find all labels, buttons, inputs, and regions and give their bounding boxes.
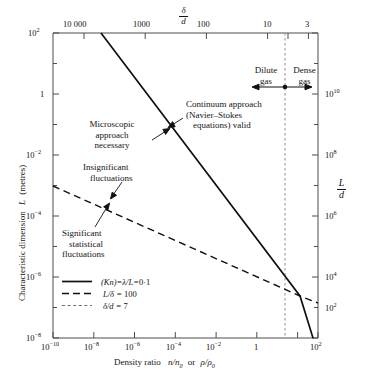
annotation-dilute-gas: Dilute gas bbox=[249, 65, 283, 86]
continuum-line-1: Continuum approach bbox=[186, 99, 262, 110]
x-axis-title-text: Density ratio bbox=[114, 357, 161, 367]
x-tick-label-1e-2: 10−2 bbox=[206, 342, 221, 352]
x-tick-label-1e-10: 10−10 bbox=[41, 342, 59, 352]
significant-line-3: fluctuations bbox=[62, 249, 105, 260]
continuum-line-2: (Navier–Stokes bbox=[186, 110, 262, 121]
legend-entry-delta-over-d: δ/d = 7 bbox=[103, 301, 128, 311]
y-tick-label-1e-4: 10−4 bbox=[26, 211, 41, 221]
dilute-gas-line-2: gas bbox=[249, 76, 283, 87]
annotation-dense-gas: Dense gas bbox=[288, 65, 321, 86]
legend-ld-value: 100 bbox=[124, 289, 137, 299]
y-tick-label-1e-6: 10−6 bbox=[26, 272, 41, 282]
annotation-continuum-approach: Continuum approach (Navier–Stokes equati… bbox=[186, 99, 262, 131]
microscopic-line-3: necessary bbox=[73, 140, 151, 151]
insignificant-line-1: Insignificant bbox=[83, 162, 133, 173]
top-tick-label-1000: 1000 bbox=[133, 19, 150, 29]
legend-ld-eq: = bbox=[116, 289, 122, 299]
continuum-line-3: equations) valid bbox=[186, 120, 262, 131]
microscopic-line-1: Microscopic bbox=[73, 119, 151, 130]
x-axis-title-n-over-n0: n/n0 bbox=[168, 357, 183, 367]
x-top-axis-ticks bbox=[84, 33, 308, 39]
x-tick-label-1: 1 bbox=[254, 342, 258, 352]
legend-kn-value: 0·1 bbox=[139, 277, 150, 287]
y-tick-label-1e2: 102 bbox=[28, 28, 40, 38]
significant-line-2: statistical bbox=[62, 239, 105, 250]
y-axis-ticks bbox=[53, 33, 59, 338]
top-tick-label-10000: 10 000 bbox=[63, 19, 86, 29]
legend-kn-lambda: λ/L bbox=[122, 277, 133, 287]
legend-kn-symbol: (Kn) bbox=[101, 277, 117, 287]
y-tick-label-1e-8: 10−8 bbox=[26, 333, 41, 343]
top-axis-title-numerator: δ bbox=[179, 6, 188, 15]
top-axis-title-denominator: d bbox=[179, 17, 188, 26]
annotation-significant-fluctuations: Significant statistical fluctuations bbox=[62, 228, 105, 260]
legend-entry-L-over-delta: L/δ = 100 bbox=[103, 289, 137, 299]
x-tick-label-1e-8: 10−8 bbox=[84, 342, 99, 352]
y-right-tick-label-1e10: 1010 bbox=[325, 89, 340, 99]
legend-entry-knudsen: (Kn)=λ/L=0·1 bbox=[101, 277, 150, 287]
x-axis-title-rho-over-rho0: ρ/ρ0 bbox=[201, 357, 215, 367]
dense-gas-line-1: Dense bbox=[288, 65, 321, 76]
y-right-tick-label-1e6: 106 bbox=[325, 211, 337, 221]
y-right-tick-label-1e4: 104 bbox=[325, 272, 337, 282]
figure-root: δ d 10 000 1000 100 10 3 102 1 10−2 10−4… bbox=[0, 0, 379, 379]
annotation-microscopic-approach: Microscopic approach necessary bbox=[73, 119, 151, 151]
top-axis-title: δ d bbox=[179, 6, 188, 26]
right-axis-title-numerator: L bbox=[337, 178, 346, 188]
right-axis-title: L d bbox=[337, 178, 346, 200]
annotation-insignificant-fluctuations: Insignificant fluctuations bbox=[83, 162, 133, 183]
top-tick-label-100: 100 bbox=[197, 19, 210, 29]
y-tick-label-1e-2: 10−2 bbox=[26, 150, 41, 160]
x-tick-label-1e-6: 10−6 bbox=[125, 342, 140, 352]
y-right-tick-label-1e8: 108 bbox=[325, 150, 337, 160]
y-right-tick-label-1e2: 102 bbox=[325, 303, 337, 313]
legend-ld-symbol: L/δ bbox=[103, 289, 114, 299]
legend-samples bbox=[62, 282, 92, 306]
x-axis-title-or: or bbox=[188, 357, 196, 367]
y-axis-title: Characteristic dimension L (metres) bbox=[17, 165, 27, 301]
insignificant-line-2: fluctuations bbox=[83, 173, 133, 184]
x-axis-ticks bbox=[53, 332, 318, 338]
dilute-gas-line-1: Dilute bbox=[249, 65, 283, 76]
y-tick-label-1: 1 bbox=[40, 89, 44, 99]
x-tick-label-1e2: 102 bbox=[310, 342, 322, 352]
x-axis-title: Density ratio n/n0 or ρ/ρ0 bbox=[114, 357, 215, 367]
y-axis-title-units: (metres) bbox=[17, 165, 27, 195]
right-axis-title-denominator: d bbox=[337, 190, 346, 200]
legend-dd-value: 7 bbox=[124, 301, 128, 311]
top-tick-label-10: 10 bbox=[263, 19, 272, 29]
microscopic-line-2: approach bbox=[73, 130, 151, 141]
chart-canvas bbox=[0, 0, 379, 379]
top-tick-label-3: 3 bbox=[305, 19, 309, 29]
x-tick-label-1e-4: 10−4 bbox=[166, 342, 181, 352]
dense-gas-line-2: gas bbox=[288, 76, 321, 87]
significant-line-1: Significant bbox=[62, 228, 105, 239]
y-axis-title-symbol: L bbox=[17, 200, 27, 205]
legend-dd-eq: = bbox=[116, 301, 122, 311]
y-axis-title-text: Characteristic dimension bbox=[17, 211, 27, 301]
legend-dd-symbol: δ/d bbox=[103, 301, 114, 311]
